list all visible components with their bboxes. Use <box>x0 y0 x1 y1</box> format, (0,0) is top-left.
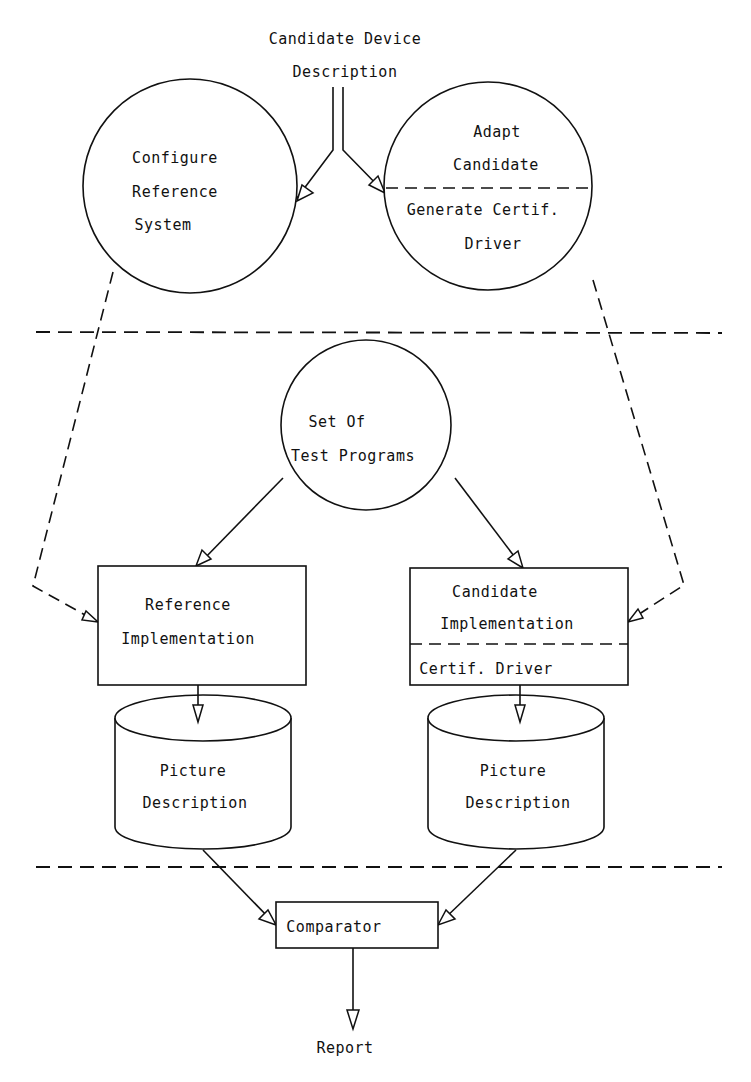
configure-line-3: System <box>134 216 191 234</box>
configure-line-2: Reference <box>132 183 218 201</box>
candidate-device-description-title: Candidate Device Description <box>269 30 422 81</box>
right-cylinder-top <box>428 695 604 741</box>
reference-implementation-box: Reference Implementation <box>98 566 306 685</box>
test-programs-line-1: Set Of <box>308 413 365 431</box>
test-programs-to-reference-flow <box>196 478 283 566</box>
picture-description-right-store: Picture Description <box>428 695 604 849</box>
candidate-implementation-box: Candidate Implementation Certif. Driver <box>410 568 628 685</box>
comparator-box: Comparator <box>276 902 438 948</box>
certif-driver-label: Certif. Driver <box>419 660 552 678</box>
test-programs-to-candidate-flow <box>455 478 523 568</box>
title-line-1: Candidate Device <box>269 30 422 48</box>
candidate-line-1: Candidate <box>452 583 538 601</box>
generate-line-2: Driver <box>464 235 521 253</box>
arrow-to-reference-icon <box>196 550 211 566</box>
picture-left-line-1: Picture <box>160 762 227 780</box>
configure-reference-system-process: Configure Reference System <box>83 79 297 293</box>
adapt-line-2: Candidate <box>453 156 539 174</box>
arrow-to-candidate-icon <box>508 551 523 568</box>
title-line-2: Description <box>293 63 398 81</box>
reference-box <box>98 566 306 685</box>
arrow-to-comparator-right-icon <box>438 910 455 925</box>
reference-line-1: Reference <box>145 596 231 614</box>
picture-right-line-1: Picture <box>480 762 547 780</box>
stage-separator-1 <box>36 332 722 333</box>
adapt-circle <box>384 82 592 290</box>
description-split-connector <box>297 87 385 201</box>
comparator-label: Comparator <box>286 918 381 936</box>
certification-flow-diagram: Candidate Device Description Configure R… <box>0 0 751 1082</box>
configure-line-1: Configure <box>132 149 218 167</box>
arrow-to-comparator-left-icon <box>259 910 276 925</box>
arrow-to-report-icon <box>347 1010 359 1029</box>
dashed-arrow-right-icon <box>628 609 643 622</box>
left-picture-to-comparator-flow <box>203 850 276 925</box>
picture-description-left-store: Picture Description <box>115 695 291 849</box>
dashed-arrow-left-icon <box>82 611 98 622</box>
left-cylinder-top <box>115 695 291 741</box>
test-programs-circle <box>281 340 451 510</box>
right-picture-to-comparator-flow <box>438 850 516 925</box>
adapt-candidate-process: Adapt Candidate Generate Certif. Driver <box>384 82 592 290</box>
generate-line-1: Generate Certif. <box>407 201 560 219</box>
reference-line-2: Implementation <box>121 630 254 648</box>
candidate-line-2: Implementation <box>440 615 573 633</box>
comparator-to-report-flow <box>347 948 359 1029</box>
picture-right-line-2: Description <box>466 794 571 812</box>
test-programs-line-2: Test Programs <box>291 447 415 465</box>
adapt-line-1: Adapt <box>473 123 521 141</box>
arrow-to-configure-icon <box>297 185 313 201</box>
report-label: Report <box>316 1039 373 1057</box>
test-programs-process: Set Of Test Programs <box>281 340 451 510</box>
picture-left-line-2: Description <box>143 794 248 812</box>
